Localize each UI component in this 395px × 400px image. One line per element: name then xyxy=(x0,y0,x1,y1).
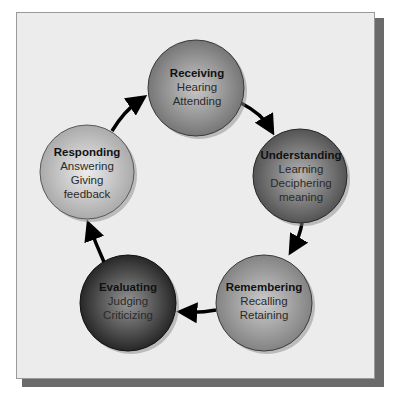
node-line: Answering xyxy=(32,159,142,173)
node-line: Learning xyxy=(246,162,356,176)
arrow-evaluating-to-responding xyxy=(90,228,104,262)
node-line: Criticizing xyxy=(73,308,183,322)
node-remembering: Remembering Recalling Retaining xyxy=(209,280,319,322)
node-title: Responding xyxy=(32,145,142,159)
node-line: Hearing xyxy=(142,80,252,94)
node-line: Judging xyxy=(73,294,183,308)
node-receiving: Receiving Hearing Attending xyxy=(142,66,252,108)
node-understanding: Understanding Learning Deciphering meani… xyxy=(246,148,356,204)
node-evaluating: Evaluating Judging Criticizing xyxy=(73,280,183,322)
node-title: Evaluating xyxy=(73,280,183,294)
node-line: Retaining xyxy=(209,308,319,322)
node-line: Recalling xyxy=(209,294,319,308)
node-title: Remembering xyxy=(209,280,319,294)
arrow-understanding-to-remembering xyxy=(293,223,302,248)
node-title: Receiving xyxy=(142,66,252,80)
node-line: feedback xyxy=(32,187,142,201)
node-title: Understanding xyxy=(246,148,356,162)
node-line: meaning xyxy=(246,190,356,204)
arrow-responding-to-receiving xyxy=(112,100,140,131)
node-line: Deciphering xyxy=(246,176,356,190)
node-responding: Responding Answering Giving feedback xyxy=(32,145,142,201)
node-line: Attending xyxy=(142,94,252,108)
node-line: Giving xyxy=(32,173,142,187)
